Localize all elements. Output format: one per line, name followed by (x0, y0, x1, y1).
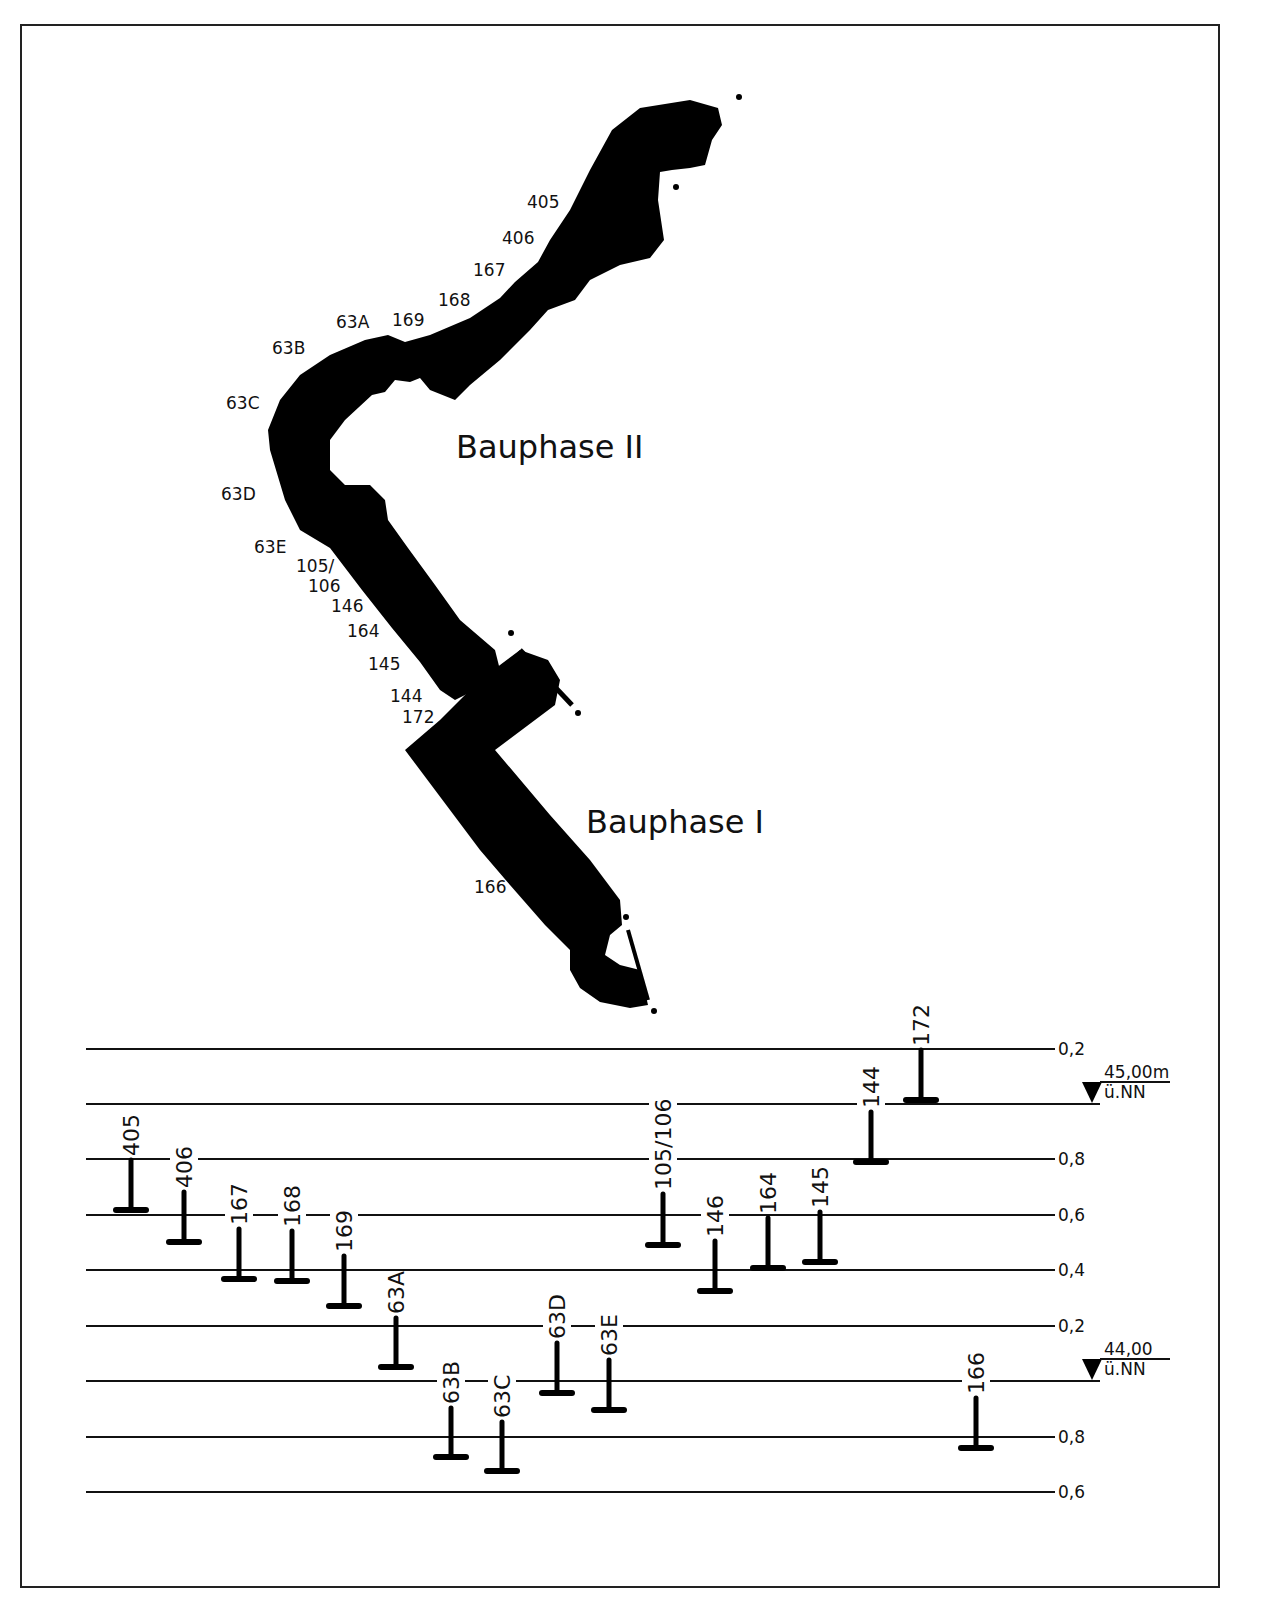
profile-bar-label: 405 (119, 1114, 144, 1156)
profile-bar: 146 (700, 1195, 730, 1291)
profile-bar-label: 168 (280, 1185, 305, 1227)
profile-bar: 63A (381, 1271, 411, 1367)
datum-unit: ü.NN (1104, 1359, 1146, 1379)
profile-bar: 63E (594, 1314, 624, 1410)
profile-bar-label: 63A (384, 1271, 409, 1314)
profile-bar-label: 63D (545, 1294, 570, 1339)
profile-bar-label: 166 (964, 1352, 989, 1394)
profile-bar: 405 (116, 1114, 146, 1210)
profile-bar: 63D (542, 1294, 572, 1393)
elevation-profile: 0,20,80,60,40,20,80,6 40540616716816963A… (0, 0, 1262, 1604)
profile-bar: 63C (487, 1375, 517, 1471)
profile-bar: 169 (329, 1210, 359, 1306)
profile-bar: 63B (436, 1361, 466, 1457)
level-tick-label: 0,2 (1058, 1316, 1085, 1336)
datum-unit: ü.NN (1104, 1082, 1146, 1102)
profile-bar-label: 63C (490, 1375, 515, 1418)
profile-bar-label: 144 (859, 1066, 884, 1108)
profile-bar: 166 (961, 1352, 991, 1448)
profile-bar-label: 172 (909, 1004, 934, 1046)
profile-bar: 172 (906, 1004, 936, 1100)
profile-bar-label: 169 (332, 1210, 357, 1252)
profile-bar-label: 105/106 (651, 1099, 676, 1190)
level-tick-label: 0,2 (1058, 1039, 1085, 1059)
profile-bar: 164 (753, 1172, 783, 1268)
profile-bar-label: 145 (808, 1166, 833, 1208)
datum-triangle-icon (1082, 1359, 1102, 1380)
level-tick-label: 0,4 (1058, 1260, 1085, 1280)
profile-bar-label: 146 (703, 1195, 728, 1237)
profile-bar: 144 (856, 1066, 886, 1162)
level-tick-label: 0,6 (1058, 1482, 1085, 1502)
level-tick-label: 0,8 (1058, 1427, 1085, 1447)
profile-bar-label: 63B (439, 1361, 464, 1404)
profile-bar: 168 (277, 1185, 307, 1281)
level-tick-label: 0,6 (1058, 1205, 1085, 1225)
datum-marker-upper_datum: 45,00mü.NN (1020, 1062, 1170, 1104)
level-tick-label: 0,8 (1058, 1149, 1085, 1169)
datum-marker-lower_datum: 44,00ü.NN (1020, 1339, 1170, 1381)
profile-bar: 105/106 (648, 1099, 678, 1245)
profile-bar-label: 164 (756, 1172, 781, 1214)
datum-value: 44,00 (1104, 1339, 1153, 1359)
datum-value: 45,00m (1104, 1062, 1169, 1082)
profile-bar-label: 167 (227, 1183, 252, 1225)
profile-bar-label: 406 (172, 1146, 197, 1188)
datum-triangle-icon (1082, 1082, 1102, 1103)
profile-bar: 167 (224, 1183, 254, 1279)
profile-bar-label: 63E (597, 1314, 622, 1356)
profile-bar: 406 (169, 1146, 199, 1242)
